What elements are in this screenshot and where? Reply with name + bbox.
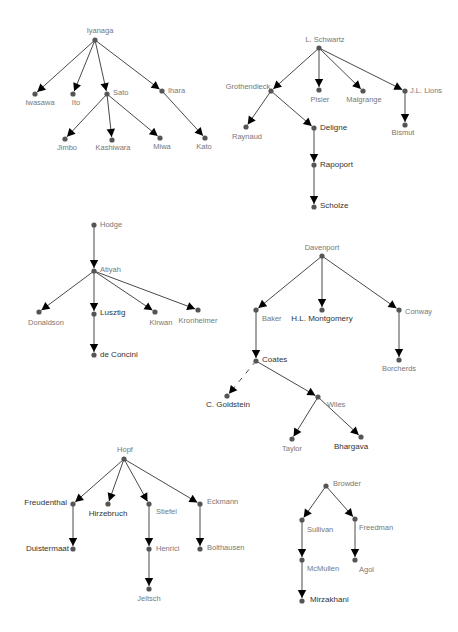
node-dot-taylor[interactable] [289,436,294,441]
node-label-eckmann: Eckmann [207,497,238,506]
arrowhead-icon [229,385,237,394]
node-label-rapoport: Rapoport [320,160,354,169]
node-label-bismut: Bismut [392,128,416,137]
arrowhead-icon [196,538,204,546]
node-label-scholze: Scholze [320,201,349,210]
node-label-bhargava: Bhargava [334,442,369,451]
node-label-baker: Baker [262,314,282,323]
edge-lschwartz-to-malgrange [319,48,361,89]
edge-atiyah-to-kirwan [94,271,153,310]
genealogy-diagram-canvas: IyanagaIwasawaItoSatoIharaJimboKashiwara… [0,0,458,632]
node-dot-eckmann[interactable] [197,501,202,506]
edge-davenport-to-baker [258,256,322,308]
arrowhead-icon [90,260,98,268]
node-dot-sullivan[interactable] [299,517,304,522]
node-label-ito: Ito [72,98,80,107]
arrowhead-icon [149,128,158,136]
arrowhead-icon [310,196,318,204]
node-label-pisier: Pisier [311,95,330,104]
edge-coates-to-wiles [256,361,315,395]
node-dot-bolthausen[interactable] [197,546,202,551]
node-label-kirwan: Kirwan [150,318,173,327]
node-dot-bismut[interactable] [402,122,407,127]
node-dot-mcmullen[interactable] [299,557,304,562]
node-dot-henrici[interactable] [146,546,151,551]
arrowhead-icon [248,116,256,125]
node-label-cgoldstein: C. Goldstein [206,400,250,409]
node-dot-ito[interactable] [70,91,75,96]
node-dot-miwa[interactable] [157,135,162,140]
node-dot-kashiwara[interactable] [109,137,114,142]
node-dot-duistermaat[interactable] [70,546,75,551]
arrowhead-icon [298,549,306,557]
node-dot-mirzakhani[interactable] [299,598,304,603]
node-dot-malgrange[interactable] [360,88,365,93]
node-dot-deligne[interactable] [311,125,316,130]
node-dot-borcherds[interactable] [396,357,401,362]
node-dot-raynaud[interactable] [243,124,248,129]
node-dot-ihara[interactable] [159,88,164,93]
node-dot-iyanaga[interactable] [92,37,97,42]
arrowhead-icon [303,118,312,126]
node-dot-coates[interactable] [253,358,258,363]
node-label-lschwartz: L. Schwartz [305,35,344,44]
arrowhead-icon [318,299,326,307]
node-label-mcmullen: McMullen [307,564,339,573]
node-dot-kirwan[interactable] [152,309,157,314]
arrowhead-icon [315,79,323,87]
node-dot-freudenthal[interactable] [70,501,75,506]
node-label-lusztig: Lusztig [100,308,125,317]
arrowhead-icon [145,538,153,546]
node-dot-pisier[interactable] [316,87,321,92]
node-dot-freedman[interactable] [352,516,357,521]
node-dot-atiyah[interactable] [91,268,96,273]
node-dot-davenport[interactable] [319,253,324,258]
node-dot-jimbo[interactable] [62,136,67,141]
node-label-kronheimer: Kronheimer [179,316,218,325]
node-dot-hodge[interactable] [91,222,96,227]
node-dot-lusztig[interactable] [91,311,96,316]
node-dot-kronheimer[interactable] [195,307,200,312]
node-label-jllions: J.L. Lions [410,86,442,95]
node-label-stiefel: Stiefel [156,507,177,516]
labels-layer: IyanagaIwasawaItoSatoIharaJimboKashiwara… [24,26,442,604]
node-label-ihara: Ihara [168,86,186,95]
node-dot-jeltsch[interactable] [146,586,151,591]
node-dot-lschwartz[interactable] [316,45,321,50]
edge-atiyah-to-donaldson [41,271,94,310]
edge-iyanaga-to-iwasawa [37,40,95,92]
node-dot-deconcini[interactable] [91,352,96,357]
arrowhead-icon [41,302,50,310]
node-dot-agol[interactable] [352,557,357,562]
node-dot-scholze[interactable] [311,204,316,209]
node-dot-donaldson[interactable] [36,309,41,314]
node-dot-jllions[interactable] [402,88,407,93]
arrowhead-icon [188,495,197,503]
arrowhead-icon [107,129,115,137]
node-dot-hirzebruch[interactable] [105,501,110,506]
node-dot-conway[interactable] [396,307,401,312]
node-dot-baker[interactable] [253,307,258,312]
arrowhead-icon [252,350,260,358]
node-dot-bhargava[interactable] [358,434,363,439]
node-dot-kato[interactable] [202,135,207,140]
node-dot-cgoldstein[interactable] [224,393,229,398]
node-dot-iwasawa[interactable] [32,91,37,96]
node-dot-stiefel[interactable] [146,501,151,506]
arrowhead-icon [351,549,359,557]
node-dot-browder[interactable] [323,483,328,488]
node-label-browder: Browder [333,479,361,488]
node-label-jimbo: Jimbo [57,143,77,152]
node-dot-hlmontgomery[interactable] [319,307,324,312]
edge-sato-to-miwa [107,94,158,136]
node-dot-hopf[interactable] [121,456,126,461]
edge-hopf-to-eckmann [124,459,197,502]
edge-grothendieck-to-deligne [271,91,312,126]
node-dot-sato[interactable] [104,91,109,96]
node-dot-rapoport[interactable] [311,162,316,167]
node-label-deligne: Deligne [320,123,348,132]
arrowhead-icon [101,82,109,91]
node-dot-wiles[interactable] [315,394,320,399]
node-label-wiles: Wiles [327,400,346,409]
arrowhead-icon [395,349,403,357]
